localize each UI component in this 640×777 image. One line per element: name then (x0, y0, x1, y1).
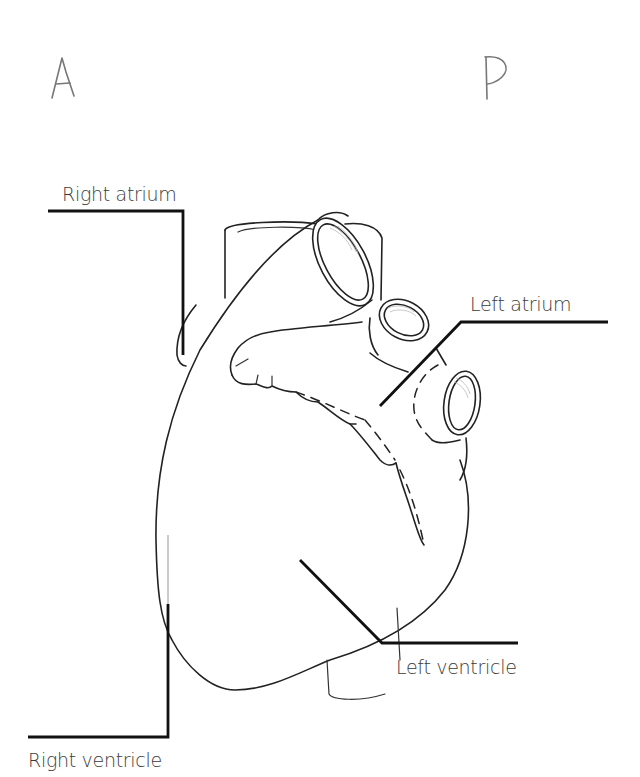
label-right-ventricle: Right ventricle (28, 749, 162, 771)
left-atrium-flap (230, 322, 424, 545)
right-ventricle-leader (28, 604, 168, 737)
left-ventricle-leader (300, 560, 518, 643)
right-atrium-outline (177, 305, 196, 366)
anterior-marker (52, 58, 74, 98)
label-right-atrium: Right atrium (62, 183, 177, 205)
inferior-vena-cava (327, 608, 400, 699)
posterior-marker (485, 57, 506, 99)
aortic-vessel (300, 209, 386, 322)
label-left-ventricle: Left ventricle (396, 656, 517, 678)
label-left-atrium: Left atrium (470, 293, 571, 315)
heart-diagram (0, 0, 640, 777)
pulmonary-vein-lower (414, 348, 484, 480)
right-atrium-leader (48, 211, 183, 355)
heart-outline (156, 220, 468, 690)
